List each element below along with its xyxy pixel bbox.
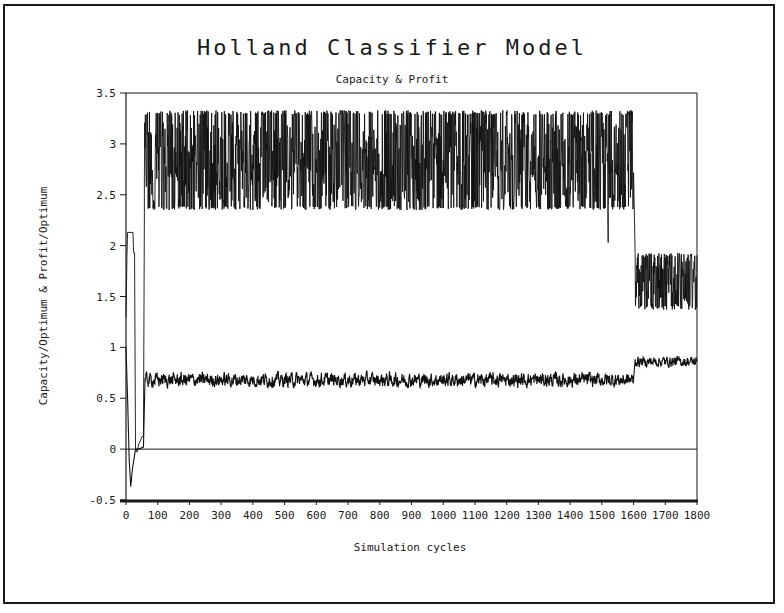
x-tick-label: 400	[243, 509, 263, 522]
x-tick-label: 1800	[684, 509, 711, 522]
x-tick-label: 500	[275, 509, 295, 522]
x-tick-label: 200	[180, 509, 200, 522]
plot-area: -0.500.511.522.533.501002003004005006007…	[0, 0, 784, 613]
y-tick-label: 3.5	[96, 87, 116, 100]
y-tick-label: 1	[109, 341, 116, 354]
x-tick-label: 100	[148, 509, 168, 522]
x-tick-label: 700	[338, 509, 358, 522]
x-tick-label: 900	[402, 509, 422, 522]
x-tick-label: 1600	[620, 509, 647, 522]
x-tick-label: 1000	[430, 509, 457, 522]
y-tick-label: -0.5	[90, 494, 117, 507]
x-tick-label: 600	[306, 509, 326, 522]
x-tick-label: 0	[123, 509, 130, 522]
x-tick-label: 1200	[493, 509, 520, 522]
x-tick-label: 1400	[557, 509, 584, 522]
series-line-capacity	[126, 110, 697, 452]
x-tick-label: 1300	[525, 509, 552, 522]
y-tick-label: 2.5	[96, 189, 116, 202]
x-tick-label: 1500	[589, 509, 616, 522]
x-tick-label: 300	[211, 509, 231, 522]
y-tick-label: 0.5	[96, 392, 116, 405]
x-tick-label: 1700	[652, 509, 679, 522]
y-tick-label: 1.5	[96, 291, 116, 304]
series-line-profit	[126, 347, 697, 486]
y-tick-label: 2	[109, 240, 116, 253]
y-tick-label: 3	[109, 138, 116, 151]
y-tick-label: 0	[109, 443, 116, 456]
data-series	[126, 110, 697, 486]
x-tick-label: 1100	[462, 509, 489, 522]
x-tick-label: 800	[370, 509, 390, 522]
